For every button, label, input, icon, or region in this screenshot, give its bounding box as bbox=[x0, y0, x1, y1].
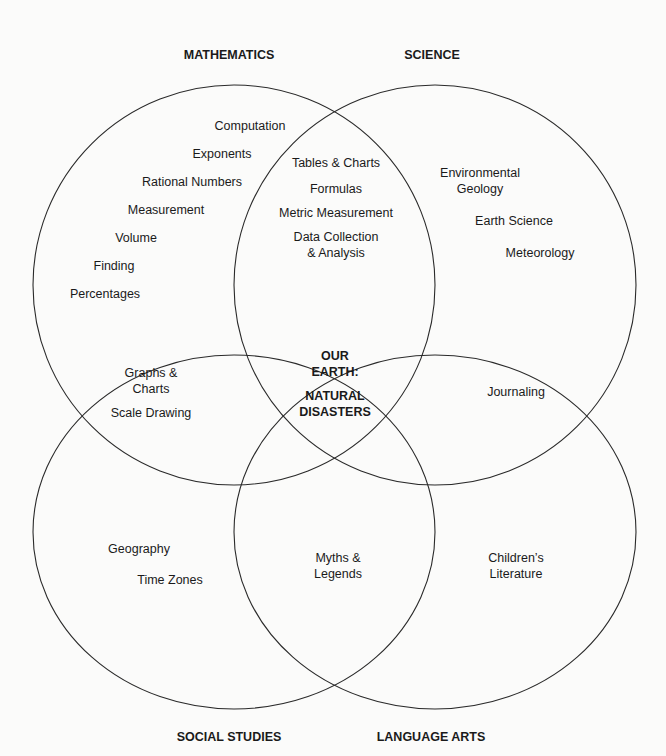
language-arts-heading: LANGUAGE ARTS bbox=[377, 730, 486, 744]
region-item: Earth Science bbox=[475, 213, 553, 229]
region-item: Formulas bbox=[310, 181, 362, 197]
region-item: Geology bbox=[457, 181, 504, 197]
region-item: Meteorology bbox=[506, 245, 575, 261]
social-studies-heading: SOCIAL STUDIES bbox=[177, 730, 282, 744]
region-item: Computation bbox=[215, 118, 286, 134]
region-item: Scale Drawing bbox=[111, 405, 192, 421]
region-item: Myths & bbox=[315, 550, 360, 566]
region-item: Tables & Charts bbox=[292, 155, 380, 171]
center-line-3: NATURAL bbox=[299, 388, 371, 404]
region-item: Literature bbox=[490, 566, 543, 582]
region-item: Volume bbox=[115, 230, 157, 246]
region-item: Percentages bbox=[70, 286, 140, 302]
region-item: Rational Numbers bbox=[142, 174, 242, 190]
region-item: Time Zones bbox=[137, 572, 203, 588]
science-heading: SCIENCE bbox=[404, 48, 460, 62]
region-item: Exponents bbox=[192, 146, 251, 162]
region-item: Charts bbox=[133, 381, 170, 397]
region-item: Environmental bbox=[440, 165, 520, 181]
center-title: OUR EARTH: NATURAL DISASTERS bbox=[299, 348, 371, 420]
region-item: Graphs & bbox=[125, 365, 178, 381]
center-line-4: DISASTERS bbox=[299, 404, 371, 420]
region-item: Geography bbox=[108, 541, 170, 557]
mathematics-heading: MATHEMATICS bbox=[184, 48, 275, 62]
region-item: Data Collection bbox=[294, 229, 379, 245]
region-item: Children’s bbox=[488, 550, 543, 566]
region-item: Metric Measurement bbox=[279, 205, 393, 221]
center-line-2: EARTH: bbox=[299, 364, 371, 380]
region-item: Journaling bbox=[487, 384, 545, 400]
region-item: Legends bbox=[314, 566, 362, 582]
region-item: Finding bbox=[94, 258, 135, 274]
region-item: & Analysis bbox=[307, 245, 365, 261]
region-item: Measurement bbox=[128, 202, 204, 218]
center-line-1: OUR bbox=[299, 348, 371, 364]
